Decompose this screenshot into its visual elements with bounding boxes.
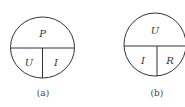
caption-b: (b) [151, 88, 164, 98]
label-a-bottom-right: I [53, 57, 59, 68]
label-a-bottom-left: U [25, 57, 34, 68]
caption-a: (a) [37, 88, 49, 98]
label-b-bottom-right: R [165, 55, 174, 66]
label-b-top: U [151, 25, 160, 36]
diagram-a: P U I (a) [11, 17, 75, 98]
circle-b [124, 13, 185, 76]
formula-circles-figure: P U I (a) U I R (b) [0, 0, 185, 107]
label-a-top: P [38, 28, 46, 39]
diagram-b: U I R (b) [124, 13, 185, 98]
label-b-bottom-left: I [140, 55, 146, 66]
